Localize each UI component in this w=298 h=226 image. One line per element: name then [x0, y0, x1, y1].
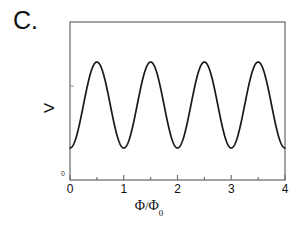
x-axis-tick-label: 2	[168, 183, 188, 195]
x-axis-title: Φ/Φ0	[0, 198, 298, 216]
x-axis-ticks	[70, 175, 285, 180]
figure-panel: C. V 0 01234 Φ/Φ0	[0, 0, 298, 226]
x-axis-tick-label: 0	[60, 183, 80, 195]
oscillation-curve	[70, 62, 285, 148]
x-axis-title-denominator: Φ	[149, 198, 159, 213]
x-axis-tick-label: 1	[114, 183, 134, 195]
plot-area	[0, 0, 298, 226]
x-axis-title-numerator: Φ	[135, 198, 145, 213]
plot-frame	[70, 22, 285, 180]
x-axis-tick-label: 3	[221, 183, 241, 195]
x-axis-tick-label: 4	[275, 183, 295, 195]
x-axis-title-subscript: 0	[159, 208, 164, 218]
